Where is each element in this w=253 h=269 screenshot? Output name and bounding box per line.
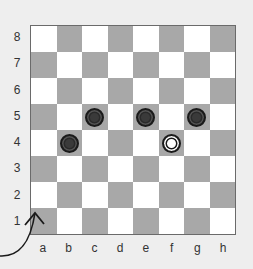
file-label: g bbox=[190, 241, 204, 255]
square-h3[interactable] bbox=[210, 156, 236, 182]
square-a6[interactable] bbox=[31, 78, 57, 104]
square-f8[interactable] bbox=[159, 26, 185, 52]
square-b3[interactable] bbox=[57, 156, 83, 182]
square-g1[interactable] bbox=[184, 208, 210, 234]
square-d4[interactable] bbox=[108, 130, 134, 156]
file-label: h bbox=[216, 241, 230, 255]
square-g7[interactable] bbox=[184, 52, 210, 78]
square-h7[interactable] bbox=[210, 52, 236, 78]
black-piece[interactable] bbox=[85, 108, 104, 127]
square-h1[interactable] bbox=[210, 208, 236, 234]
rank-label: 4 bbox=[11, 135, 23, 149]
square-e3[interactable] bbox=[133, 156, 159, 182]
square-d5[interactable] bbox=[108, 104, 134, 130]
square-e2[interactable] bbox=[133, 182, 159, 208]
file-label: e bbox=[139, 241, 153, 255]
square-d7[interactable] bbox=[108, 52, 134, 78]
square-e5[interactable] bbox=[133, 104, 159, 130]
square-h5[interactable] bbox=[210, 104, 236, 130]
square-b1[interactable] bbox=[57, 208, 83, 234]
square-a4[interactable] bbox=[31, 130, 57, 156]
rank-label: 2 bbox=[11, 188, 23, 202]
square-g5[interactable] bbox=[184, 104, 210, 130]
square-e6[interactable] bbox=[133, 78, 159, 104]
square-g3[interactable] bbox=[184, 156, 210, 182]
square-c5[interactable] bbox=[82, 104, 108, 130]
square-d3[interactable] bbox=[108, 156, 134, 182]
square-b2[interactable] bbox=[57, 182, 83, 208]
rank-label: 8 bbox=[11, 30, 23, 44]
square-f7[interactable] bbox=[159, 52, 185, 78]
file-label: c bbox=[87, 241, 101, 255]
square-g4[interactable] bbox=[184, 130, 210, 156]
square-a8[interactable] bbox=[31, 26, 57, 52]
white-piece[interactable] bbox=[162, 134, 181, 153]
square-b6[interactable] bbox=[57, 78, 83, 104]
curved-arrow-icon bbox=[0, 205, 60, 269]
square-a5[interactable] bbox=[31, 104, 57, 130]
square-b4[interactable] bbox=[57, 130, 83, 156]
black-piece[interactable] bbox=[60, 134, 79, 153]
file-label: b bbox=[62, 241, 76, 255]
square-a3[interactable] bbox=[31, 156, 57, 182]
square-g2[interactable] bbox=[184, 182, 210, 208]
square-d2[interactable] bbox=[108, 182, 134, 208]
square-e7[interactable] bbox=[133, 52, 159, 78]
rank-label: 6 bbox=[11, 83, 23, 97]
square-h2[interactable] bbox=[210, 182, 236, 208]
square-f4[interactable] bbox=[159, 130, 185, 156]
square-f5[interactable] bbox=[159, 104, 185, 130]
square-c3[interactable] bbox=[82, 156, 108, 182]
square-e4[interactable] bbox=[133, 130, 159, 156]
square-f6[interactable] bbox=[159, 78, 185, 104]
black-piece[interactable] bbox=[187, 108, 206, 127]
square-d8[interactable] bbox=[108, 26, 134, 52]
square-c2[interactable] bbox=[82, 182, 108, 208]
file-label: d bbox=[113, 241, 127, 255]
square-e1[interactable] bbox=[133, 208, 159, 234]
square-e8[interactable] bbox=[133, 26, 159, 52]
square-c6[interactable] bbox=[82, 78, 108, 104]
square-d6[interactable] bbox=[108, 78, 134, 104]
square-f2[interactable] bbox=[159, 182, 185, 208]
square-c8[interactable] bbox=[82, 26, 108, 52]
square-f1[interactable] bbox=[159, 208, 185, 234]
rank-label: 3 bbox=[11, 161, 23, 175]
file-label: f bbox=[165, 241, 179, 255]
square-g6[interactable] bbox=[184, 78, 210, 104]
square-h8[interactable] bbox=[210, 26, 236, 52]
square-h6[interactable] bbox=[210, 78, 236, 104]
black-piece[interactable] bbox=[136, 108, 155, 127]
rank-label: 7 bbox=[11, 56, 23, 70]
square-h4[interactable] bbox=[210, 130, 236, 156]
square-b5[interactable] bbox=[57, 104, 83, 130]
square-c4[interactable] bbox=[82, 130, 108, 156]
square-a7[interactable] bbox=[31, 52, 57, 78]
square-c7[interactable] bbox=[82, 52, 108, 78]
square-g8[interactable] bbox=[184, 26, 210, 52]
square-c1[interactable] bbox=[82, 208, 108, 234]
square-b7[interactable] bbox=[57, 52, 83, 78]
square-f3[interactable] bbox=[159, 156, 185, 182]
square-b8[interactable] bbox=[57, 26, 83, 52]
checkers-board bbox=[30, 25, 236, 235]
square-d1[interactable] bbox=[108, 208, 134, 234]
rank-label: 5 bbox=[11, 109, 23, 123]
